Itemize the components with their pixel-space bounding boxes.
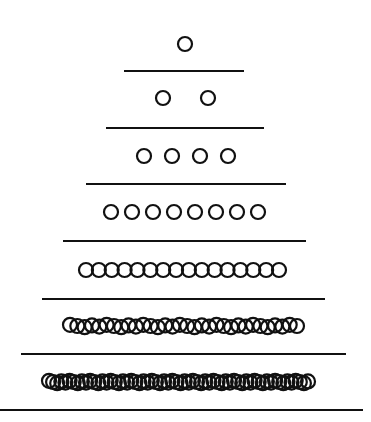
circle-row-2 xyxy=(156,91,215,105)
circle-icon xyxy=(156,91,170,105)
circle-icon xyxy=(201,91,215,105)
circle-row-7 xyxy=(42,374,315,390)
circle-icon xyxy=(165,149,179,163)
circle-row-3 xyxy=(137,149,235,163)
doubling-pyramid-diagram xyxy=(0,0,371,422)
circle-icon xyxy=(209,205,223,219)
circle-icon xyxy=(125,205,139,219)
circle-icon xyxy=(188,205,202,219)
circle-icon xyxy=(230,205,244,219)
circle-row-6 xyxy=(63,318,304,334)
circle-icon xyxy=(251,205,265,219)
circle-icon xyxy=(178,37,192,51)
circle-icon xyxy=(221,149,235,163)
circle-icon xyxy=(104,205,118,219)
circle-row-5 xyxy=(79,263,286,277)
circle-icon xyxy=(193,149,207,163)
circle-icon xyxy=(146,205,160,219)
circle-row-1 xyxy=(178,37,192,51)
circle-icon xyxy=(167,205,181,219)
circle-row-4 xyxy=(104,205,265,219)
circle-icon xyxy=(137,149,151,163)
diagram-canvas xyxy=(0,0,371,422)
